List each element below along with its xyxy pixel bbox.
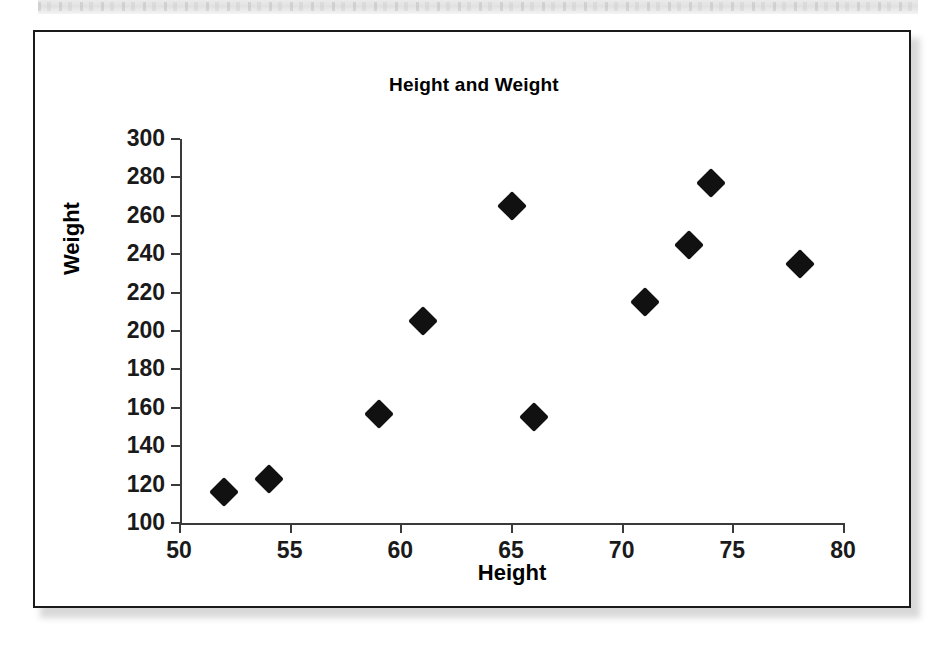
scatter-point [409, 307, 439, 337]
y-tick-label: 120 [101, 471, 165, 497]
x-axis-title: Height [180, 560, 844, 586]
x-tick-70: 70 [622, 523, 624, 533]
y-tick-label: 220 [101, 279, 165, 305]
scan-artifact-strip [38, 0, 918, 14]
y-tick-label: 280 [101, 163, 165, 189]
y-tick-280: 280 [171, 176, 180, 178]
y-tick-label: 260 [101, 202, 165, 228]
y-tick-label: 140 [101, 432, 165, 458]
y-tick-220: 220 [171, 292, 180, 294]
scatter-point [497, 191, 527, 221]
x-tick-60: 60 [400, 523, 402, 533]
chart-title: Height and Weight [35, 74, 913, 96]
scatter-point [254, 464, 284, 494]
y-axis-title: Weight [59, 202, 85, 275]
y-tick-300: 300 [171, 138, 180, 140]
scatter-point [696, 168, 726, 198]
x-tick-50: 50 [179, 523, 181, 533]
scatter-point [785, 249, 815, 279]
x-tick-80: 80 [843, 523, 845, 533]
y-tick-180: 180 [171, 368, 180, 370]
scatter-point [209, 477, 239, 507]
scatter-point [519, 403, 549, 433]
y-tick-240: 240 [171, 253, 180, 255]
y-axis-line [180, 139, 182, 523]
scatter-point [674, 230, 704, 260]
y-tick-label: 240 [101, 240, 165, 266]
y-tick-label: 100 [101, 509, 165, 535]
y-tick-140: 140 [171, 445, 180, 447]
y-tick-120: 120 [171, 484, 180, 486]
scatter-point [630, 287, 660, 317]
y-tick-label: 160 [101, 394, 165, 420]
x-tick-65: 65 [511, 523, 513, 533]
chart-figure: Height and Weight 1001201401601802002202… [33, 30, 911, 608]
x-tick-55: 55 [290, 523, 292, 533]
y-tick-label: 180 [101, 355, 165, 381]
y-tick-label: 200 [101, 317, 165, 343]
plot-area: 100120140160180200220240260280300 505560… [180, 139, 844, 523]
scatter-point [364, 399, 394, 429]
y-tick-160: 160 [171, 407, 180, 409]
y-tick-200: 200 [171, 330, 180, 332]
x-tick-75: 75 [732, 523, 734, 533]
y-tick-label: 300 [101, 125, 165, 151]
y-tick-260: 260 [171, 215, 180, 217]
